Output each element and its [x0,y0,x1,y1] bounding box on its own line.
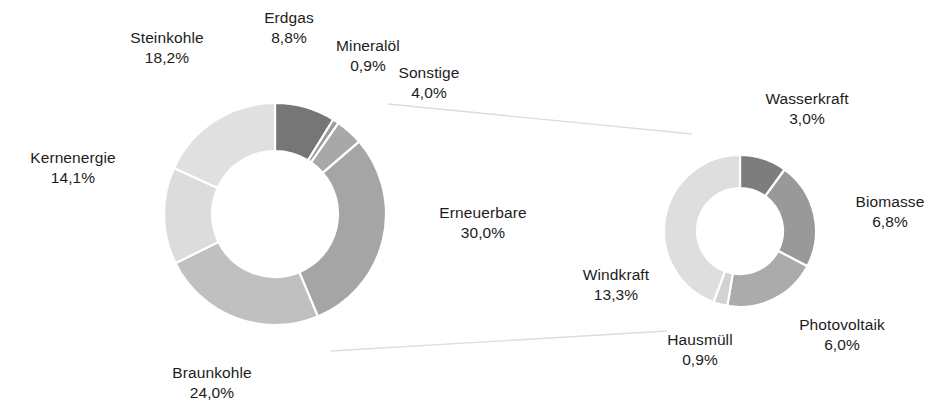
donut-slice-photovoltaik[interactable] [727,251,807,307]
donut-slice-erneuerbare[interactable] [299,142,386,317]
slice-label-erneuerbare-value: 30,0% [422,223,544,243]
slice-label-sonstige-name: Sonstige [386,63,472,83]
slice-label-erdgas-value: 8,8% [247,28,331,48]
slice-label-windkraft-value: 13,3% [566,285,666,305]
slice-label-wasserkraft: Wasserkraft 3,0% [747,89,867,130]
slice-label-biomasse: Biomasse 6,8% [845,192,935,233]
slice-label-hausmuell-name: Hausmüll [658,330,742,350]
connector-line-bottom [331,331,667,351]
slice-label-photovoltaik-value: 6,0% [790,335,894,355]
slice-label-steinkohle: Steinkohle 18,2% [106,28,228,69]
connector-line-top [388,104,692,134]
slice-label-photovoltaik: Photovoltaik 6,0% [790,315,894,356]
slice-label-biomasse-name: Biomasse [845,192,935,212]
slice-label-erneuerbare-name: Erneuerbare [422,203,544,223]
slice-label-hausmuell: Hausmüll 0,9% [658,330,742,371]
donut-slice-steinkohle[interactable] [174,103,275,188]
donut-slice-biomasse[interactable] [765,170,816,267]
slice-label-erdgas-name: Erdgas [247,8,331,28]
slice-label-wasserkraft-name: Wasserkraft [747,89,867,109]
slice-label-braunkohle: Braunkohle 24,0% [158,363,266,404]
slice-label-sonstige-value: 4,0% [386,83,472,103]
slice-label-photovoltaik-name: Photovoltaik [790,315,894,335]
slice-label-mineraloel-name: Mineralöl [322,36,414,56]
donut-chart-figure: Steinkohle 18,2% Erdgas 8,8% Mineralöl 0… [0,0,938,420]
slice-label-erdgas: Erdgas 8,8% [247,8,331,49]
main-donut-slices [164,103,386,325]
slice-label-hausmuell-value: 0,9% [658,350,742,370]
slice-label-braunkohle-value: 24,0% [158,383,266,403]
detail-donut-slices [664,155,816,307]
slice-label-braunkohle-name: Braunkohle [158,363,266,383]
slice-label-wasserkraft-value: 3,0% [747,109,867,129]
slice-label-erneuerbare: Erneuerbare 30,0% [422,203,544,244]
slice-label-kernenergie: Kernenergie 14,1% [14,148,132,189]
slice-label-windkraft: Windkraft 13,3% [566,265,666,306]
donut-slice-braunkohle[interactable] [175,242,317,325]
slice-label-steinkohle-value: 18,2% [106,48,228,68]
slice-label-biomasse-value: 6,8% [845,212,935,232]
slice-label-kernenergie-value: 14,1% [14,168,132,188]
slice-label-steinkohle-name: Steinkohle [106,28,228,48]
slice-label-kernenergie-name: Kernenergie [14,148,132,168]
slice-label-windkraft-name: Windkraft [566,265,666,285]
slice-label-sonstige: Sonstige 4,0% [386,63,472,104]
